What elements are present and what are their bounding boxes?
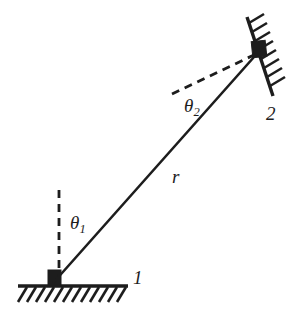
- theta1-subscript: 1: [80, 222, 86, 236]
- wall-reference-dashed-line: [172, 54, 256, 94]
- theta1-symbol: θ: [70, 212, 79, 233]
- theta2-label: θ2: [184, 96, 200, 115]
- diagram-canvas: [0, 0, 308, 325]
- ground-hatching: [18, 287, 126, 302]
- rod-length-label: r: [172, 167, 179, 186]
- theta1-label: θ1: [70, 213, 86, 232]
- ground-support-group: [18, 270, 128, 302]
- joint2-label: 2: [266, 104, 276, 123]
- connecting-rod: [54, 48, 262, 282]
- theta2-symbol: θ: [184, 95, 193, 116]
- mechanism-diagram: θ1 θ2 r 1 2: [0, 0, 308, 325]
- theta2-subscript: 2: [194, 105, 200, 119]
- joint1-label: 1: [133, 268, 143, 287]
